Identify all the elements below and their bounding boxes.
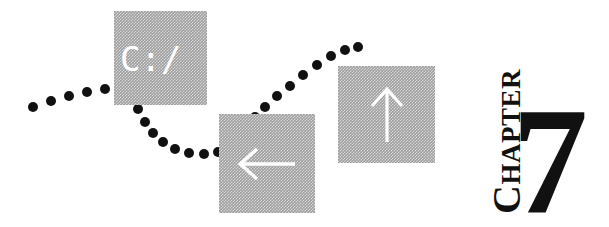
left-arrow-tile [219, 114, 315, 213]
arrow-left-icon [237, 146, 297, 182]
trail-dot [260, 102, 270, 112]
trail-dot [28, 102, 38, 112]
trail-dot [148, 128, 158, 138]
chapter-heading-graphic: C:/ CHAPTER 7 [0, 0, 609, 227]
trail-dot [353, 42, 363, 52]
trail-dot [184, 148, 194, 158]
trail-dot [158, 137, 168, 147]
trail-dot [133, 104, 143, 114]
trail-dot [298, 70, 308, 80]
trail-dot [272, 91, 282, 101]
trail-dot [340, 45, 350, 55]
prompt-tile-label: C:/ [120, 42, 181, 76]
up-arrow-tile [338, 66, 435, 163]
arrow-up-icon [368, 86, 406, 144]
trail-dot [326, 51, 336, 61]
trail-dot [285, 81, 295, 91]
chapter-number: 7 [512, 85, 586, 227]
trail-dot [199, 149, 209, 159]
trail-dot [100, 84, 110, 94]
trail-dot [46, 96, 56, 106]
trail-dot [312, 60, 322, 70]
trail-dot [140, 117, 150, 127]
prompt-tile: C:/ [114, 11, 207, 105]
trail-dot [64, 91, 74, 101]
trail-dot [82, 87, 92, 97]
trail-dot [170, 144, 180, 154]
